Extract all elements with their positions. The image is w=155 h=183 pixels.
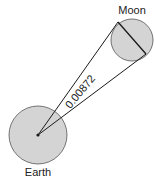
earth-label: Earth — [25, 166, 51, 178]
moon-circle — [111, 19, 153, 61]
angle-label: 0.00872 — [63, 72, 98, 110]
sight-line-upper — [38, 22, 118, 135]
earth-moon-diagram: Moon Earth 0.00872 — [0, 0, 155, 183]
moon-label: Moon — [118, 4, 146, 16]
earth-center-point — [36, 133, 39, 136]
sight-line-lower — [38, 54, 146, 135]
